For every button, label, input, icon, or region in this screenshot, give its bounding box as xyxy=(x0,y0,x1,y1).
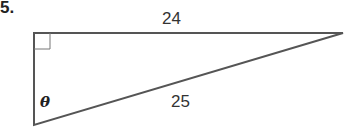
angle-theta-label: θ xyxy=(40,93,50,111)
right-angle-marker xyxy=(34,33,50,49)
triangle xyxy=(34,33,343,125)
right-triangle-diagram: 24 25 θ xyxy=(0,0,348,128)
hypotenuse-label-25: 25 xyxy=(171,92,190,111)
side-label-24: 24 xyxy=(162,9,181,28)
